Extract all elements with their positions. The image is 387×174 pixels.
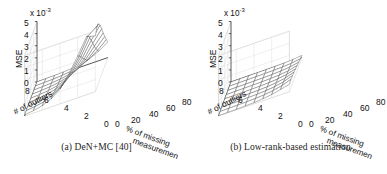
plot-b-surface <box>194 0 387 140</box>
panel-b: x 10-3 MSE 5 4 3 2 1 0 8 6 4 2 0 # of ou… <box>194 0 387 174</box>
plot-a-canvas <box>0 0 193 140</box>
panel-b-caption: (b) Low-rank-based estimation <box>194 142 387 152</box>
figure-container: x 10-3 MSE 5 4 3 2 1 0 8 6 4 2 0 # of ou… <box>0 0 387 174</box>
panel-a-caption: (a) DeN+MC [40] <box>0 142 193 152</box>
plot-a-surface <box>0 0 193 140</box>
plot-b-canvas <box>194 0 387 140</box>
panel-a: x 10-3 MSE 5 4 3 2 1 0 8 6 4 2 0 # of ou… <box>0 0 193 174</box>
